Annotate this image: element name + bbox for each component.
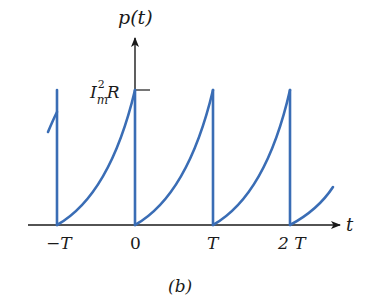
x-tick-zero: 0 bbox=[130, 233, 141, 253]
peak-label-subscript: m bbox=[97, 93, 108, 107]
y-axis-label: p(t) bbox=[118, 6, 153, 28]
peak-label-suffix: R bbox=[107, 82, 120, 102]
peak-label-scripts: 2m bbox=[97, 82, 107, 102]
peak-value-label: I2mR bbox=[90, 82, 120, 102]
power-waveform-plot bbox=[0, 0, 372, 307]
figure-caption: (b) bbox=[168, 276, 192, 296]
x-tick-2T: 2 T bbox=[278, 233, 306, 253]
x-tick-minus-T: −T bbox=[46, 233, 72, 253]
peak-label-base: I bbox=[90, 82, 97, 102]
power-curve bbox=[48, 90, 333, 225]
x-tick-T: T bbox=[207, 233, 218, 253]
peak-label-superscript: 2 bbox=[98, 78, 105, 91]
x-axis-label: t bbox=[346, 214, 353, 235]
